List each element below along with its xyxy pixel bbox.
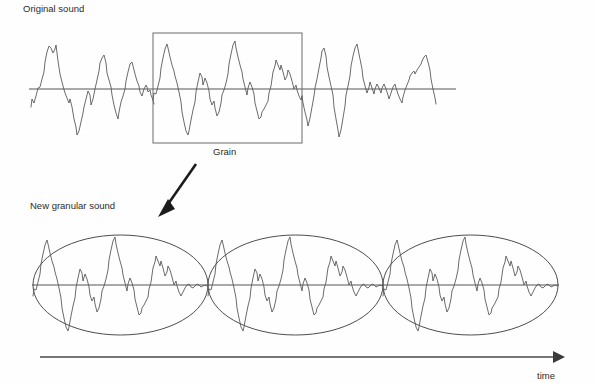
granular-synthesis-diagram: Original sound Grain New granular sound …: [0, 0, 595, 383]
figure-background: [0, 0, 595, 383]
figure-canvas: Original sound Grain New granular sound …: [0, 0, 595, 383]
time-axis-label: time: [537, 370, 555, 381]
original-sound-label: Original sound: [23, 3, 84, 14]
grain-label: Grain: [213, 146, 236, 157]
new-granular-sound-label: New granular sound: [30, 200, 115, 211]
